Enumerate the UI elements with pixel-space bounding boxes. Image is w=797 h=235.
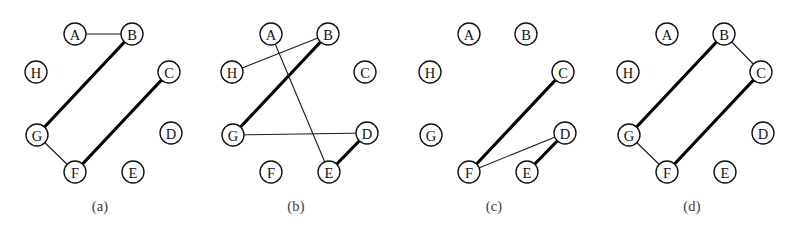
edge-a-e — [271, 34, 329, 172]
node-label-g: G — [624, 128, 635, 144]
node-label-e: E — [129, 165, 138, 181]
panel-b: ABCDEFGH(b) — [196, 0, 396, 235]
node-a: A — [458, 23, 480, 45]
node-label-e: E — [523, 165, 532, 181]
node-label-f: F — [71, 165, 79, 181]
node-label-a: A — [662, 27, 673, 43]
edge-b-g — [233, 34, 328, 135]
graph-figure: ABCDEFGH(a)ABCDEFGH(b)ABCDEFGH(c)ABCDEFG… — [0, 0, 797, 235]
node-label-f: F — [663, 165, 671, 181]
panel-d: ABCDEFGH(d) — [592, 0, 792, 235]
node-g: G — [222, 124, 244, 146]
node-d: D — [356, 122, 378, 144]
panel-c-edges — [469, 72, 565, 172]
panel-b-caption: (b) — [196, 198, 396, 215]
node-label-b: B — [719, 27, 729, 43]
node-label-a: A — [70, 27, 81, 43]
node-e: E — [122, 161, 144, 183]
edge-f-c — [469, 72, 563, 172]
node-label-d: D — [758, 126, 768, 142]
panel-d-caption: (d) — [592, 198, 792, 215]
edge-c-f — [667, 72, 761, 172]
node-label-b: B — [323, 27, 333, 43]
node-label-h: H — [425, 65, 436, 81]
node-label-e: E — [721, 165, 730, 181]
edge-b-g — [629, 34, 724, 135]
node-label-h: H — [227, 65, 238, 81]
node-label-c: C — [164, 65, 174, 81]
node-label-b: B — [521, 27, 531, 43]
node-f: F — [64, 161, 86, 183]
node-f: F — [458, 161, 480, 183]
panel-a-caption: (a) — [0, 198, 200, 215]
node-label-h: H — [623, 65, 634, 81]
node-label-a: A — [464, 27, 475, 43]
panel-b-edges — [232, 34, 367, 172]
node-b: B — [515, 23, 537, 45]
node-d: D — [160, 122, 182, 144]
node-h: H — [617, 61, 639, 83]
node-f: F — [260, 161, 282, 183]
node-d: D — [554, 122, 576, 144]
panel-c-graph: ABCDEFGH — [394, 0, 594, 195]
node-g: G — [420, 124, 442, 146]
node-label-f: F — [465, 165, 473, 181]
node-label-f: F — [267, 165, 275, 181]
node-c: C — [354, 61, 376, 83]
node-d: D — [752, 122, 774, 144]
panel-a-nodes: ABCDEFGH — [25, 23, 182, 183]
node-label-e: E — [325, 165, 334, 181]
node-label-d: D — [560, 126, 570, 142]
node-label-a: A — [266, 27, 277, 43]
node-c: C — [750, 61, 772, 83]
node-a: A — [656, 23, 678, 45]
node-g: G — [618, 124, 640, 146]
panel-c-caption: (c) — [394, 198, 594, 215]
node-label-h: H — [31, 65, 42, 81]
node-label-c: C — [360, 65, 370, 81]
node-h: H — [419, 61, 441, 83]
edge-g-d — [233, 133, 367, 135]
node-e: E — [318, 161, 340, 183]
panel-d-nodes: ABCDEFGH — [617, 23, 774, 183]
node-label-b: B — [127, 27, 137, 43]
node-label-g: G — [426, 128, 437, 144]
panel-d-graph: ABCDEFGH — [592, 0, 792, 195]
edge-f-c — [75, 72, 169, 172]
node-h: H — [221, 61, 243, 83]
panel-b-graph: ABCDEFGH — [196, 0, 396, 195]
node-label-d: D — [362, 126, 372, 142]
panel-a-edges — [37, 34, 169, 172]
panel-a-graph: ABCDEFGH — [0, 0, 200, 195]
node-e: E — [516, 161, 538, 183]
node-f: F — [656, 161, 678, 183]
panel-d-edges — [629, 34, 761, 172]
panel-a: ABCDEFGH(a) — [0, 0, 200, 235]
node-b: B — [713, 23, 735, 45]
panel-c-nodes: ABCDEFGH — [419, 23, 576, 183]
node-g: G — [26, 124, 48, 146]
node-h: H — [25, 61, 47, 83]
node-label-c: C — [756, 65, 766, 81]
node-c: C — [158, 61, 180, 83]
node-b: B — [121, 23, 143, 45]
node-label-g: G — [32, 128, 43, 144]
panel-c: ABCDEFGH(c) — [394, 0, 594, 235]
node-b: B — [317, 23, 339, 45]
node-c: C — [552, 61, 574, 83]
node-label-g: G — [228, 128, 239, 144]
node-a: A — [64, 23, 86, 45]
node-a: A — [260, 23, 282, 45]
node-label-d: D — [166, 126, 176, 142]
node-label-c: C — [558, 65, 568, 81]
edge-b-g — [37, 34, 132, 135]
node-e: E — [714, 161, 736, 183]
